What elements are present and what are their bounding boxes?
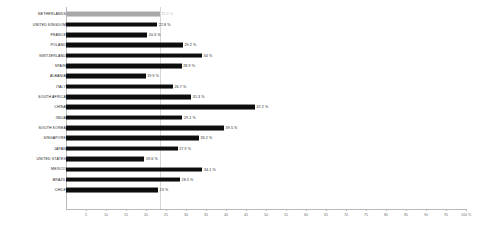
category-label: SWITZERLAND	[39, 54, 66, 58]
category-label: NETHERLANDS	[38, 12, 66, 16]
bar-row: ITALY26.7 %	[0, 81, 488, 91]
category-label: CHILE	[55, 188, 66, 192]
bar-value-label: 28.9 %	[182, 64, 195, 68]
x-axis-tick-label: 80	[384, 213, 388, 217]
bar-highlighted	[66, 12, 160, 17]
bar	[66, 126, 224, 131]
bar-row: CHILE23 %	[0, 185, 488, 195]
bar-row: UNITED KINGDOM22.8 %	[0, 19, 488, 29]
x-axis-tick	[446, 209, 447, 212]
x-axis-tick-label: 75	[364, 213, 368, 217]
x-axis-tick-label: 35	[204, 213, 208, 217]
x-axis-tick-label: 95	[444, 213, 448, 217]
bar-value-label: 47.2 %	[255, 105, 268, 109]
bar-value-label: 20.3 %	[147, 33, 160, 37]
x-axis-tick	[246, 209, 247, 212]
bar-value-label: 23.4 %	[160, 12, 173, 16]
bar-track: 31.3 %	[66, 92, 466, 102]
bar-value-label: 22.8 %	[157, 23, 170, 27]
x-axis-tick	[206, 209, 207, 212]
category-label: POLAND	[51, 43, 66, 47]
bar-row: MEXICO34.1 %	[0, 164, 488, 174]
bar	[66, 136, 199, 141]
bar-track: 47.2 %	[66, 102, 466, 112]
bar-value-label: 31.3 %	[191, 95, 204, 99]
bar-track: 20.3 %	[66, 30, 466, 40]
category-label: ALBANIA	[50, 74, 66, 78]
x-axis-tick-label: 90	[424, 213, 428, 217]
category-label: UNITED STATES	[37, 157, 66, 161]
bar-track: 33.2 %	[66, 133, 466, 143]
category-label: CHINA	[54, 105, 66, 109]
bar-value-label: 27.9 %	[178, 147, 191, 151]
bar-row: CHINA47.2 %	[0, 102, 488, 112]
bar-row: NETHERLANDS23.4 %	[0, 9, 488, 19]
bar	[66, 167, 202, 172]
bar-track: 26.7 %	[66, 81, 466, 91]
bar-track: 22.8 %	[66, 19, 466, 29]
category-label: UNITED KINGDOM	[33, 23, 66, 27]
x-axis-tick-label: 45	[244, 213, 248, 217]
bar-value-label: 23 %	[158, 188, 168, 192]
bar-row: INDIA29.1 %	[0, 112, 488, 122]
x-axis-tick-label: 65	[324, 213, 328, 217]
bar-value-label: 19.9 %	[146, 74, 159, 78]
bar	[66, 157, 144, 162]
category-label: ITALY	[56, 85, 66, 89]
x-axis-tick-label: 15	[124, 213, 128, 217]
bar-track: 29.1 %	[66, 112, 466, 122]
x-axis-tick-label: 25	[164, 213, 168, 217]
category-label: MEXICO	[51, 167, 66, 171]
bar	[66, 74, 146, 79]
bar-value-label: 29.2 %	[183, 43, 196, 47]
x-axis-tick	[266, 209, 267, 212]
bar-row: UNITED STATES19.6 %	[0, 154, 488, 164]
bar-row: POLAND29.2 %	[0, 40, 488, 50]
bar-value-label: 28.5 %	[180, 178, 193, 182]
bar	[66, 43, 183, 48]
x-axis-tick	[166, 209, 167, 212]
bar-track: 39.5 %	[66, 123, 466, 133]
bar-track: 19.9 %	[66, 71, 466, 81]
bar-rows-container: NETHERLANDS23.4 %UNITED KINGDOM22.8 %FRA…	[0, 9, 488, 195]
x-axis-tick-label: 55	[284, 213, 288, 217]
bar	[66, 177, 180, 182]
x-axis-tick	[326, 209, 327, 212]
bar	[66, 188, 158, 193]
x-axis-tick	[86, 209, 87, 212]
x-axis-tick-label: 70	[344, 213, 348, 217]
bar-track: 29.2 %	[66, 40, 466, 50]
x-axis-tick	[406, 209, 407, 212]
chart-page: NETHERLANDS23.4 %UNITED KINGDOM22.8 %FRA…	[0, 0, 488, 228]
category-label: FRANCE	[51, 33, 66, 37]
bar-chart-plot-area: NETHERLANDS23.4 %UNITED KINGDOM22.8 %FRA…	[0, 0, 488, 228]
bar-row: ALBANIA19.9 %	[0, 71, 488, 81]
bar-value-label: 34 %	[202, 54, 212, 58]
category-label: INDIA	[56, 116, 66, 120]
bar-track: 28.9 %	[66, 61, 466, 71]
x-axis-tick-label: 85	[404, 213, 408, 217]
x-axis-tick-label: 30	[184, 213, 188, 217]
bar	[66, 53, 202, 58]
x-axis-tick	[146, 209, 147, 212]
category-label: SPAIN	[55, 64, 66, 68]
bar	[66, 22, 157, 27]
x-axis-tick-label: 50	[264, 213, 268, 217]
category-label: SINGAPORE	[44, 136, 66, 140]
bar	[66, 33, 147, 38]
x-axis-tick	[366, 209, 367, 212]
bar-track: 27.9 %	[66, 143, 466, 153]
bar	[66, 64, 182, 69]
bar	[66, 84, 173, 89]
bar-track: 34 %	[66, 50, 466, 60]
bar-value-label: 39.5 %	[224, 126, 237, 130]
x-axis-tick	[306, 209, 307, 212]
bar-row: FRANCE20.3 %	[0, 30, 488, 40]
bar-value-label: 33.2 %	[199, 136, 212, 140]
bar-value-label: 34.1 %	[202, 167, 215, 171]
x-axis-tick	[106, 209, 107, 212]
bar-row: SOUTH KOREA39.5 %	[0, 123, 488, 133]
x-axis-tick	[226, 209, 227, 212]
x-axis-tick	[426, 209, 427, 212]
bar-track: 28.5 %	[66, 175, 466, 185]
